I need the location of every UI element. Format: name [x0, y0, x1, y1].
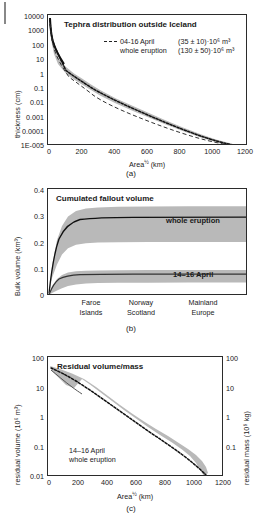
panel-a-y-tick: 1 — [40, 69, 44, 78]
band-dotted-icon — [53, 456, 66, 463]
panel-a-x-tick: 200 — [76, 147, 88, 156]
panel-a-y-tick: 0.001 — [26, 112, 44, 121]
panel-a-legend-row: whole eruption — [104, 46, 167, 55]
panel-a-y-tick: 0.1 — [34, 84, 44, 93]
panel-a-legend-value: (130 ± 50)·10⁶ m³ — [178, 46, 234, 55]
panel-b-plot-frame — [47, 188, 247, 295]
band-dotted-icon — [104, 47, 117, 54]
panel-c-x-tick: 800 — [159, 478, 171, 487]
panel-a-legend-label: 04-16 April — [120, 37, 154, 46]
panel-b-x-category-line1: Norway — [127, 298, 155, 308]
panel-a-y-tick: 1000 — [28, 26, 44, 35]
panel-a-plot-svg — [48, 15, 247, 145]
panel-b-april-label: 14–16 April — [173, 270, 213, 279]
panel-b-whole-eruption-label: whole eruption — [166, 216, 220, 225]
panel-b-x-category-line2: Scotland — [127, 308, 155, 318]
figure-root: thickness (cm) 10000 1000 100 10 1 0.1 0… — [0, 0, 262, 531]
panel-c-legend-label: whole eruption — [69, 455, 116, 464]
panel-c-legend: 14–16 April whole eruption — [53, 446, 116, 464]
panel-c-caption: (c) — [0, 504, 262, 513]
panel-b-plot-svg — [48, 189, 247, 295]
panel-a-title: Tephra distribution outside Iceland — [64, 20, 197, 29]
panel-a-x-tick: 1200 — [237, 147, 253, 156]
panel-a-y-tick: 10 — [36, 55, 44, 64]
panel-c-y-ticks-right: 100 10 1 0.1 — [226, 356, 256, 476]
dashed-line-icon — [104, 38, 117, 45]
panel-b-y-tick: 0.2 — [34, 238, 44, 247]
panel-a-caption: (a) — [0, 169, 262, 178]
panel-a: thickness (cm) 10000 1000 100 10 1 0.1 0… — [0, 10, 262, 182]
panel-c-y-tick-left: 100 — [32, 354, 44, 363]
panel-b-title: Cumulated fallout volume — [56, 194, 154, 203]
panel-c-y-tick-right: 1 — [226, 413, 230, 422]
panel-c-x-tick: 0 — [47, 478, 51, 487]
panel-a-x-tick: 1000 — [204, 147, 220, 156]
panel-a-legend-label: whole eruption — [120, 46, 167, 55]
panel-b-x-category: Faroe Islands — [80, 298, 103, 318]
panel-c-y-tick-right: 10 — [226, 383, 234, 392]
panel-c-legend-row: whole eruption — [53, 455, 116, 464]
panel-c-y-tick-right: 0.1 — [226, 442, 236, 451]
panel-a-legend: 04-16 April whole eruption — [104, 37, 167, 55]
panel-c-legend-row: 14–16 April — [53, 446, 116, 455]
panel-c: residual volume (10⁶ m³) residual mass (… — [0, 352, 262, 531]
panel-a-legend-row: 04-16 April — [104, 37, 167, 46]
panel-c-y-tick-left: 0.01 — [30, 472, 44, 481]
panel-a-x-tick: 800 — [174, 147, 186, 156]
panel-a-x-tick: 0 — [47, 147, 51, 156]
panel-a-y-tick: 100 — [32, 40, 44, 49]
panel-b-x-category-line1: Faroe — [80, 298, 103, 308]
panel-b-caption: (b) — [0, 324, 262, 333]
panel-a-legend-values: (35 ± 10)·10⁶ m³ (130 ± 50)·10⁶ m³ — [178, 37, 234, 55]
panel-a-y-tick: 10000 — [24, 12, 44, 21]
panel-b-y-tick: 0.1 — [34, 264, 44, 273]
band-dotted-icon — [53, 447, 66, 454]
panel-a-plot-frame — [47, 14, 247, 145]
panel-c-x-axis-label: Area½ (km) — [47, 491, 223, 501]
panel-c-y-tick-left: 1 — [40, 413, 44, 422]
panel-b-x-category-line1: Mainland — [188, 298, 217, 308]
panel-b-y-tick: 0 — [40, 291, 44, 300]
panel-b: Bulk volume (km³) 0.4 0.3 0.2 0.1 0 whol… — [0, 184, 262, 349]
panel-a-x-axis-label: Area½ (km) — [47, 159, 247, 169]
panel-b-x-category: Norway Scotland — [127, 298, 155, 318]
panel-a-x-tick: 600 — [141, 147, 153, 156]
panel-c-y-tick-right: 100 — [226, 354, 238, 363]
panel-b-x-category-line2: Europe — [188, 308, 217, 318]
panel-c-x-axis-label-unit: (km) — [137, 492, 153, 501]
panel-c-x-tick: 200 — [72, 478, 84, 487]
panel-c-legend-label: 14–16 April — [69, 446, 105, 455]
panel-c-y-tick-left: 0.1 — [34, 442, 44, 451]
panel-b-y-ticks: 0.4 0.3 0.2 0.1 0 — [0, 188, 44, 295]
panel-c-y-ticks-left: 100 10 1 0.1 0.01 — [0, 356, 44, 476]
panel-b-x-category-labels: Faroe Islands Norway Scotland Mainland E… — [47, 298, 247, 322]
panel-c-x-axis-label-text: Area — [117, 492, 132, 501]
panel-c-x-tick: 400 — [101, 478, 113, 487]
panel-c-x-ticks: 0 200 400 600 800 1000 1200 — [47, 478, 247, 490]
panel-c-x-tick: 600 — [130, 478, 142, 487]
panel-a-y-tick: 1E-005 — [21, 141, 44, 150]
panel-a-legend-value: (35 ± 10)·10⁶ m³ — [178, 37, 234, 46]
panel-a-y-ticks: 10000 1000 100 10 1 0.1 0.01 0.001 0.000… — [0, 14, 44, 145]
panel-c-y-tick-left: 10 — [36, 383, 44, 392]
panel-b-y-tick: 0.4 — [34, 186, 44, 195]
panel-b-y-tick: 0.3 — [34, 212, 44, 221]
panel-a-x-ticks: 0 200 400 600 800 1000 1200 — [47, 147, 247, 159]
panel-b-x-category-line2: Islands — [80, 308, 103, 318]
panel-a-y-tick: 0.01 — [30, 98, 44, 107]
panel-a-y-tick: 0.0001 — [22, 127, 44, 136]
panel-c-x-tick: 1200 — [215, 478, 231, 487]
panel-a-x-tick: 400 — [108, 147, 120, 156]
panel-c-x-tick: 1000 — [186, 478, 202, 487]
panel-b-x-category: Mainland Europe — [188, 298, 217, 318]
panel-c-title: Residual volume/mass — [57, 362, 143, 371]
